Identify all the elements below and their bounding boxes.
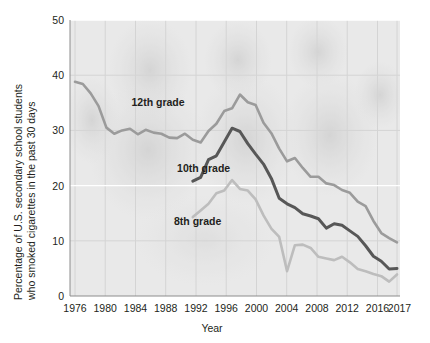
x-tick-2000: 2000 bbox=[245, 302, 269, 314]
y-tick-10: 10 bbox=[52, 235, 64, 247]
x-axis-title: Year bbox=[201, 322, 223, 334]
line-chart: 0 10 20 30 40 50 1976 1980 1984 1988 199… bbox=[0, 0, 430, 343]
y-tick-50: 50 bbox=[52, 14, 64, 26]
chart-container: 0 10 20 30 40 50 1976 1980 1984 1988 199… bbox=[0, 0, 430, 343]
x-tick-1988: 1988 bbox=[154, 302, 178, 314]
y-axis-title-line1: Percentage of U.S. secondary school stud… bbox=[12, 84, 24, 300]
x-tick-2004: 2004 bbox=[275, 302, 299, 314]
y-axis-title-line2: who smoked cigarettes in the past 30 day… bbox=[25, 102, 37, 301]
x-tick-2012: 2012 bbox=[336, 302, 360, 314]
y-tick-20: 20 bbox=[52, 180, 64, 192]
series-label-grade10: 10th grade bbox=[177, 162, 230, 174]
x-tick-1976: 1976 bbox=[63, 302, 87, 314]
x-tick-1980: 1980 bbox=[94, 302, 118, 314]
x-tick-2017: 2017 bbox=[388, 302, 412, 314]
y-tick-labels: 0 10 20 30 40 50 bbox=[52, 14, 64, 302]
y-tick-0: 0 bbox=[58, 290, 64, 302]
x-tick-2016: 2016 bbox=[366, 302, 390, 314]
y-tick-40: 40 bbox=[52, 69, 64, 81]
series-label-grade8: 8th grade bbox=[174, 215, 221, 227]
x-tick-labels: 1976 1980 1984 1988 1992 1996 2000 2004 … bbox=[63, 302, 411, 314]
x-tick-1992: 1992 bbox=[184, 302, 208, 314]
x-tick-1984: 1984 bbox=[124, 302, 148, 314]
x-tick-2008: 2008 bbox=[305, 302, 329, 314]
series-label-grade12: 12th grade bbox=[132, 96, 185, 108]
y-tick-30: 30 bbox=[52, 124, 64, 136]
x-tick-1996: 1996 bbox=[215, 302, 239, 314]
